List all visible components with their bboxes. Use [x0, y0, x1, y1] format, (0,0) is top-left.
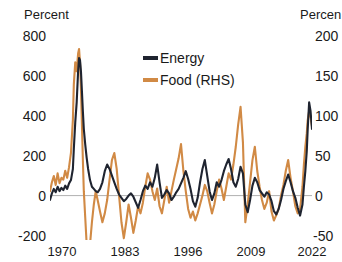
left-tick-200: 200 — [0, 149, 46, 163]
right-tick-minus50: -50 — [313, 229, 342, 243]
left-tick-minus200: -200 — [0, 229, 46, 243]
right-tick-100: 100 — [315, 109, 342, 123]
legend-label-energy: Energy — [160, 51, 204, 65]
legend-swatch-food-icon — [143, 78, 158, 82]
left-tick-800: 800 — [0, 29, 46, 43]
left-tick-400: 400 — [0, 109, 46, 123]
left-tick-0: 0 — [0, 189, 46, 203]
legend-item-energy: Energy — [143, 47, 273, 69]
right-tick-50: 50 — [315, 149, 342, 163]
legend-label-food: Food (RHS) — [160, 73, 235, 87]
x-tick-1970: 1970 — [32, 245, 92, 259]
plot-area — [50, 18, 312, 200]
right-tick-200: 200 — [315, 29, 342, 43]
right-tick-0: 0 — [315, 189, 342, 203]
x-tick-2009: 2009 — [221, 245, 281, 259]
x-tick-1983: 1983 — [95, 245, 155, 259]
legend-swatch-energy-icon — [143, 56, 158, 60]
left-tick-600: 600 — [0, 69, 46, 83]
legend-item-food: Food (RHS) — [143, 69, 273, 91]
chart-legend: Energy Food (RHS) — [143, 47, 273, 91]
chart-container: Percent Percen 800 600 400 200 0 -200 20… — [0, 0, 342, 262]
x-tick-2022: 2022 — [282, 245, 342, 259]
right-tick-150: 150 — [315, 69, 342, 83]
x-tick-1996: 1996 — [158, 245, 218, 259]
